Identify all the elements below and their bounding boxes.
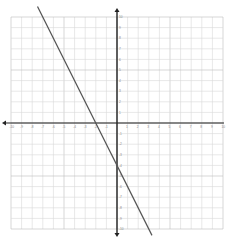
x-tick-label: -1 [105,125,108,129]
axes [2,8,224,237]
y-tick-label: 7 [119,47,121,51]
y-tick-label: 6 [119,58,121,62]
coordinate-plane: -10-9-8-7-6-5-4-3-2-112345678910-10-9-8-… [0,0,227,239]
y-tick-label: 5 [119,68,121,72]
x-tick-label: 2 [137,125,139,129]
x-tick-label: 9 [211,125,213,129]
x-tick-label: 4 [158,125,160,129]
x-tick-label: 10 [222,125,226,129]
y-tick-label: 10 [119,15,123,19]
x-tick-label: 1 [126,125,128,129]
x-tick-label: -9 [20,125,23,129]
y-tick-label: 4 [119,79,121,83]
x-axis-arrow-left-icon [2,121,6,126]
x-tick-label: -5 [63,125,66,129]
x-tick-label: 3 [147,125,149,129]
x-tick-label: 5 [169,125,171,129]
y-tick-label: -8 [119,206,122,210]
y-tick-label: 3 [119,89,121,93]
y-tick-label: -4 [119,164,122,168]
line-series [38,6,152,235]
y-tick-label: 2 [119,100,121,104]
x-tick-label: -10 [10,125,15,129]
plotted-line [38,6,152,235]
y-tick-label: 1 [119,111,121,115]
x-tick-label: -6 [52,125,55,129]
y-tick-label: -3 [119,153,122,157]
x-tick-label: -4 [73,125,76,129]
y-tick-label: -7 [119,195,122,199]
y-tick-label: 8 [119,36,121,40]
y-tick-label: -1 [119,132,122,136]
y-tick-label: -10 [119,227,124,231]
x-tick-label: 6 [179,125,181,129]
y-axis-arrow-up-icon [115,8,120,12]
y-axis-arrow-down-icon [115,233,120,237]
y-tick-label: -2 [119,142,122,146]
y-tick-label: -6 [119,185,122,189]
x-tick-label: -7 [41,125,44,129]
x-tick-label: -3 [84,125,87,129]
x-tick-label: -8 [31,125,34,129]
x-tick-label: 8 [200,125,202,129]
y-tick-label: 9 [119,26,121,30]
y-tick-label: -9 [119,217,122,221]
x-tick-label: 7 [190,125,192,129]
